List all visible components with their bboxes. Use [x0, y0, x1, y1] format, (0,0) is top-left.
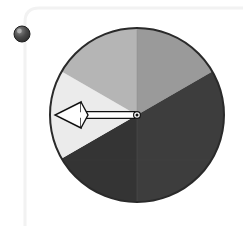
- spinner-screen: Spinner Wheel Spinner wheel pointer-arro…: [0, 0, 243, 226]
- knob-layer: [0, 0, 243, 226]
- drag-knob-highlight: [17, 29, 22, 34]
- drag-knob[interactable]: [14, 26, 30, 42]
